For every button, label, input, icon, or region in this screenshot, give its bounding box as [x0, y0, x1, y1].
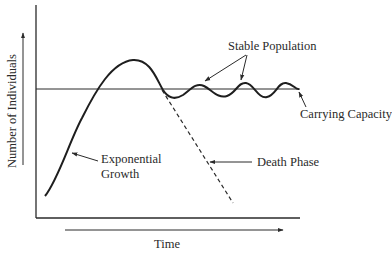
death-phase-curve	[162, 90, 233, 203]
carrying-capacity-arrow	[299, 92, 306, 107]
y-axis-label: Number of Individuals	[5, 54, 19, 168]
death-phase-label: Death Phase	[257, 155, 320, 169]
exponential-growth-arrow	[72, 153, 98, 161]
axes-frame	[36, 5, 300, 218]
population-growth-diagram: Stable Population Carrying Capacity Expo…	[0, 0, 392, 259]
stable-population-label: Stable Population	[228, 39, 317, 53]
stable-population-arrow-1	[205, 55, 246, 81]
exponential-growth-label-line1: Exponential	[101, 152, 162, 166]
population-curve	[45, 60, 299, 196]
stable-population-arrow-2	[241, 55, 247, 80]
exponential-growth-label-line2: Growth	[101, 167, 140, 181]
carrying-capacity-label: Carrying Capacity	[300, 107, 392, 121]
x-axis-label: Time	[154, 237, 180, 251]
